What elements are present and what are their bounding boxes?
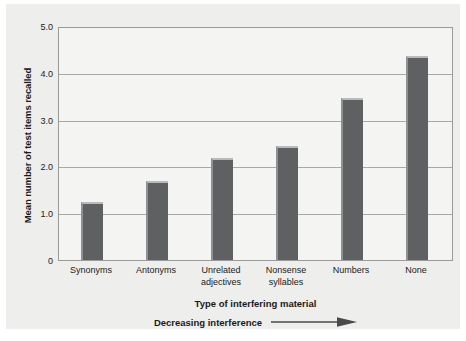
x-axis-ticks: Synonyms Antonyms Unrelated adjectives N…: [58, 265, 453, 297]
plot-area: [58, 27, 453, 261]
bar-synonyms: [81, 202, 103, 260]
bar-chart-figure: Mean number of test items recalled 5.0 4…: [0, 0, 466, 341]
bar-numbers: [341, 98, 363, 260]
bar-unrelated-adjectives: [211, 158, 233, 260]
right-arrow-icon: [271, 316, 357, 328]
interference-annotation: Decreasing interference: [58, 316, 453, 328]
y-tick-label: 3.0: [3, 116, 53, 126]
x-tick-line: syllables: [247, 277, 325, 289]
y-tick-label: 0: [3, 256, 53, 266]
y-tick-label: 4.0: [3, 69, 53, 79]
x-tick-none: None: [377, 265, 455, 277]
y-tick-label: 5.0: [3, 22, 53, 32]
bar-antonyms: [146, 181, 168, 260]
y-tick-label: 2.0: [3, 162, 53, 172]
x-tick-line: None: [377, 265, 455, 277]
bar-series: [59, 28, 452, 260]
bar-slot: [124, 28, 189, 260]
bar-slot: [384, 28, 449, 260]
bar-none: [406, 56, 428, 260]
y-tick-label: 1.0: [3, 209, 53, 219]
bar-slot: [189, 28, 254, 260]
bar-nonsense-syllables: [276, 146, 298, 260]
y-axis-ticks: 5.0 4.0 3.0 2.0 1.0 0: [0, 27, 53, 261]
x-axis-title: Type of interfering material: [58, 298, 453, 309]
bar-slot: [319, 28, 384, 260]
bar-slot: [254, 28, 319, 260]
bar-slot: [59, 28, 124, 260]
annotation-text: Decreasing interference: [154, 317, 262, 328]
